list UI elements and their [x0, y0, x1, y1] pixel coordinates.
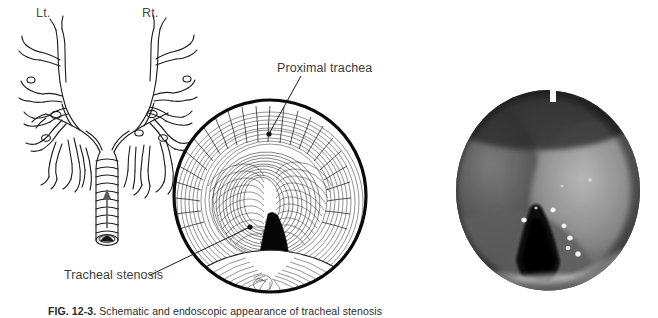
schematic-bronchoscopic-view	[150, 46, 390, 306]
right-side-label: Rt.	[142, 6, 159, 20]
figure-caption: FIG. 12-3. Schematic and endoscopic appe…	[0, 305, 430, 317]
proximal-trachea-label: Proximal trachea	[277, 61, 372, 75]
viewing-direction-arrow	[103, 189, 111, 228]
left-side-label: Lt.	[36, 6, 51, 20]
endoscopic-photo-panel	[444, 86, 644, 294]
endoscopic-photograph	[444, 86, 644, 294]
figure-root: Lt. Rt.	[0, 0, 658, 318]
figure-caption-text: Schematic and endoscopic appearance of t…	[99, 305, 382, 317]
schematic-panel: Proximal trachea Tracheal stenosis	[150, 46, 390, 306]
tracheal-stenosis-label: Tracheal stenosis	[64, 268, 163, 282]
figure-caption-label: FIG. 12-3.	[48, 305, 96, 317]
